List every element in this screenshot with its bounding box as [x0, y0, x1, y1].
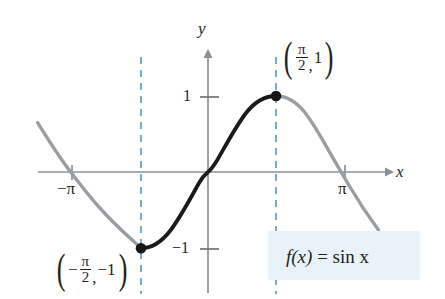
x-tick-label-neg-pi: −π [57, 180, 75, 197]
y-axis-label: y [198, 20, 206, 37]
annotation-max-close-paren: ) [325, 38, 334, 78]
x-axis-arrowhead [385, 168, 394, 177]
annotation-max-fraction: π 2 [296, 42, 308, 74]
annotation-min-fraction: π 2 [80, 254, 92, 286]
annotation-minimum-point: ( − π 2 , −1 ) [54, 250, 130, 290]
annotation-max-open-paren: ( [284, 38, 293, 78]
point-marker-maximum [271, 91, 282, 102]
curve-left-tail [38, 123, 141, 249]
x-tick-label-pi: π [338, 180, 347, 197]
annotation-min-y-value: −1 [97, 260, 115, 280]
annotation-min-comma: , [92, 268, 96, 290]
annotation-max-comma: , [309, 56, 313, 78]
annotation-min-open-paren: ( [57, 250, 66, 290]
annotation-min-denominator: 2 [80, 270, 92, 285]
function-label-expression: sin x [333, 246, 369, 267]
function-label-argument: (x) [291, 246, 312, 267]
curve-right-tail [276, 96, 379, 230]
function-label: f(x) = sin x [286, 246, 369, 268]
annotation-maximum-point: ( π 2 , 1 ) [281, 38, 336, 78]
annotation-max-y-value: 1 [314, 48, 323, 68]
annotation-max-numerator: π [296, 42, 308, 58]
annotation-max-denominator: 2 [296, 58, 308, 73]
x-axis-label: x [396, 163, 404, 180]
function-label-equals: = [317, 246, 328, 267]
annotation-min-close-paren: ) [118, 250, 127, 290]
annotation-min-numerator: π [80, 254, 92, 270]
annotation-min-minus-sign: − [68, 260, 78, 280]
sine-graph-figure: y x −π π 1 −1 ( π 2 , 1 ) ( − π 2 , −1 )… [0, 0, 445, 299]
y-axis-arrowhead [204, 49, 213, 58]
y-tick-label-neg-one: −1 [172, 240, 189, 256]
y-tick-label-one: 1 [183, 88, 191, 104]
point-marker-minimum [136, 243, 147, 254]
